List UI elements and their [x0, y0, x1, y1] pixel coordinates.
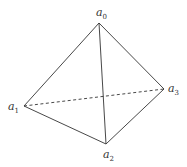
vertex-label-a3: a3 — [168, 82, 179, 97]
edge-a2-a3 — [106, 89, 164, 144]
edges-group — [24, 23, 164, 144]
edge-a1-a3-hidden — [24, 89, 164, 106]
vertex-label-a2: a2 — [103, 148, 114, 163]
edge-a0-a2 — [99, 23, 106, 144]
edge-a0-a1 — [24, 23, 99, 106]
edge-a1-a2 — [24, 106, 106, 144]
tetrahedron-diagram: a0a1a2a3 — [0, 0, 187, 167]
edge-a0-a3 — [99, 23, 164, 89]
vertex-label-a0: a0 — [96, 6, 107, 21]
vertex-label-a1: a1 — [8, 100, 19, 115]
